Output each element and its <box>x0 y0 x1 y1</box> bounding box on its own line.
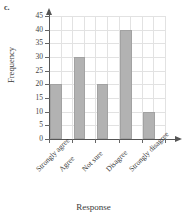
x-axis-tick <box>119 139 120 143</box>
y-axis-tick <box>45 98 50 99</box>
bar <box>50 84 62 139</box>
x-axis-tick <box>49 139 50 143</box>
y-axis-tick-label-wrap: 5 <box>25 121 43 129</box>
y-axis-tick-label: 20 <box>27 80 43 88</box>
y-axis-title: Frequency <box>6 30 16 100</box>
y-axis-tick <box>45 30 50 31</box>
bar <box>143 112 155 139</box>
bar <box>97 84 109 139</box>
y-axis-tick <box>45 57 50 58</box>
x-axis-category-label: Agree <box>57 154 76 173</box>
x-axis-category-label: Disagree <box>104 148 129 173</box>
bar <box>74 57 86 139</box>
y-axis-tick-label-wrap: 15 <box>25 94 43 102</box>
y-axis-tick-label: 5 <box>27 121 43 129</box>
bar-chart: 051015202530354045 Strongly agreeAgreeNo… <box>0 0 187 217</box>
y-axis-tick <box>45 71 50 72</box>
y-axis-tick <box>45 125 50 126</box>
y-axis-tick-label: 40 <box>27 26 43 34</box>
y-axis-tick <box>45 43 50 44</box>
y-axis-tick-label: 25 <box>27 67 43 75</box>
y-axis-tick-label: 0 <box>27 135 43 143</box>
y-axis-tick-label: 15 <box>27 94 43 102</box>
x-axis-category-label: Not sure <box>80 149 104 173</box>
y-axis-tick-label-wrap: 30 <box>25 53 43 61</box>
y-axis-tick-label: 45 <box>27 12 43 20</box>
bar <box>120 30 132 139</box>
y-axis-line <box>49 14 50 140</box>
y-axis-tick <box>45 84 50 85</box>
y-axis-tick-label: 30 <box>27 53 43 61</box>
y-axis-tick-label-wrap: 35 <box>25 39 43 47</box>
y-axis-tick-label-wrap: 40 <box>25 26 43 34</box>
x-axis-tick <box>72 139 73 143</box>
y-axis-arrow-icon <box>46 8 52 15</box>
y-axis-tick-label: 35 <box>27 39 43 47</box>
y-axis-tick-label-wrap: 25 <box>25 67 43 75</box>
gridline-vertical <box>165 16 166 139</box>
y-axis-tick-label-wrap: 10 <box>25 108 43 116</box>
y-axis-tick-label-wrap: 45 <box>25 12 43 20</box>
y-axis-tick <box>45 112 50 113</box>
x-axis-title: Response <box>0 202 187 212</box>
plot-area <box>49 16 165 139</box>
y-axis-tick-label: 10 <box>27 108 43 116</box>
x-axis-arrow-icon <box>175 136 182 142</box>
y-axis-tick <box>45 16 50 17</box>
x-axis-tick <box>142 139 143 143</box>
x-axis-tick <box>95 139 96 143</box>
y-axis-tick-label-wrap: 0 <box>25 135 43 143</box>
y-axis-tick-label-wrap: 20 <box>25 80 43 88</box>
